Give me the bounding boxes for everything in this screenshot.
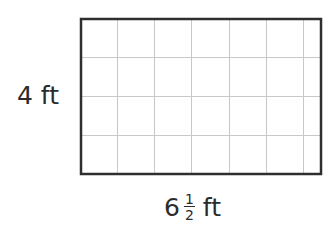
- width-unit: ft: [203, 195, 221, 220]
- width-whole: 6: [164, 195, 180, 220]
- fraction-denominator: 2: [185, 207, 194, 222]
- height-unit: ft: [41, 81, 59, 110]
- width-label: 6 1 2 ft: [164, 192, 221, 222]
- fraction-numerator: 1: [184, 192, 195, 207]
- height-label: 4 ft: [17, 83, 59, 108]
- width-fraction: 1 2: [184, 192, 195, 222]
- grid-lines: [81, 19, 321, 174]
- height-value: 4: [17, 81, 33, 110]
